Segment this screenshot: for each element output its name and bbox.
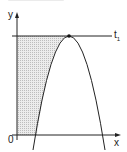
tangent-label: t1 [114,30,120,42]
x-axis-label: x [114,138,119,148]
tangent-label-subscript: 1 [117,36,120,42]
shaded-area [17,36,69,135]
diagram [0,0,127,152]
origin-label: 0 [8,135,14,145]
y-axis-label: y [8,10,13,20]
vertex-point [67,34,71,38]
y-axis-arrow-icon [15,12,19,18]
